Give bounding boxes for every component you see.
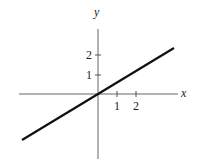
x-axis-label: x	[180, 86, 187, 100]
x-tick-label-1: 1	[114, 99, 120, 113]
y-tick-label-1: 1	[86, 68, 92, 82]
x-tick-label-2: 2	[133, 99, 139, 113]
y-tick-label-2: 2	[86, 48, 92, 62]
y-axis-label: y	[93, 5, 100, 19]
graph: 1 2 1 2 x y	[0, 0, 198, 168]
